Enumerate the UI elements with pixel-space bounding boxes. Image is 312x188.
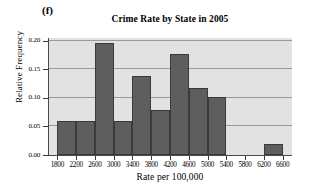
histogram-bar [151,110,170,155]
y-axis-tick [43,69,49,70]
histogram-bar [208,97,227,155]
x-axis-tick [57,156,58,160]
x-axis-tick-label: 6600 [269,161,297,169]
x-axis-tick [283,156,284,160]
y-axis-tick-label: 0.05 [0,123,40,130]
histogram-bar [189,88,208,155]
x-axis-tick [226,156,227,160]
x-axis-tick [245,156,246,160]
y-axis-tick-label: 0.20 [0,37,40,44]
x-axis-tick [264,156,265,160]
x-axis-tick [208,156,209,160]
chart-title: Crime Rate by State in 2005 [48,14,292,25]
plot-area [48,38,292,155]
x-axis-tick [151,156,152,160]
y-axis-tick-label: 0.15 [0,66,40,73]
x-axis-tick [189,156,190,160]
histogram-bar [170,54,189,155]
x-axis-tick [76,156,77,160]
y-axis-tick [43,41,49,42]
gridline-y [48,40,292,41]
histogram-bar [132,76,151,155]
y-axis-tick-label: 0.00 [0,152,40,159]
x-axis-title: Rate per 100,000 [48,172,292,183]
x-axis-tick [114,156,115,160]
y-axis-tick [43,126,49,127]
histogram-bar [264,144,283,155]
histogram-bar [95,43,114,155]
x-axis-tick [95,156,96,160]
histogram-bar [76,121,95,155]
y-axis-tick [43,155,49,156]
x-axis-tick [170,156,171,160]
x-axis-tick [132,156,133,160]
histogram-bar [114,121,133,155]
y-axis-tick-label: 0.10 [0,94,40,101]
histogram-bar [57,121,76,155]
histogram-figure: (f) Crime Rate by State in 2005 Relative… [0,0,312,188]
y-axis-tick [43,98,49,99]
